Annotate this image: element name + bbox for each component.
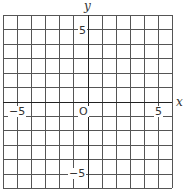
- x-tick-neg-5: −5: [8, 106, 26, 117]
- y-axis-label: y: [84, 0, 91, 12]
- coordinate-grid: [0, 0, 187, 192]
- origin-label: O: [78, 106, 89, 117]
- y-tick-pos-5: 5: [78, 25, 87, 36]
- x-tick-pos-5: 5: [154, 106, 163, 117]
- y-tick-neg-5: −5: [68, 168, 86, 179]
- x-axis-label: x: [176, 96, 183, 108]
